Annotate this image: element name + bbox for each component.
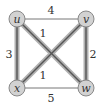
weight-v-x: 1	[40, 69, 47, 82]
node-x-label: x	[14, 82, 21, 95]
weight-u-v: 4	[48, 4, 55, 17]
weight-u-x: 3	[6, 48, 13, 61]
node-u: u	[9, 11, 25, 27]
weight-u-w: 1	[40, 27, 47, 40]
node-v-label: v	[83, 13, 90, 26]
node-v: v	[78, 11, 94, 27]
node-w-label: w	[81, 82, 91, 95]
graph-diagram: 4 3 1 1 2 5 u v x w	[0, 0, 102, 106]
node-w: w	[78, 80, 94, 96]
node-u-label: u	[13, 13, 20, 26]
weight-v-w: 2	[90, 48, 97, 61]
weight-x-w: 5	[48, 92, 55, 105]
node-x: x	[9, 80, 25, 96]
